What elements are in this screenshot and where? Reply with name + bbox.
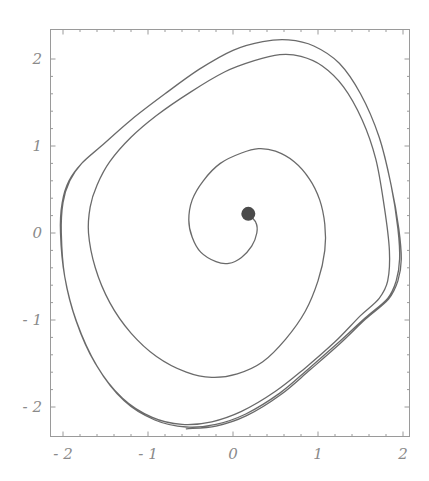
y-axis-ticks (51, 59, 410, 407)
y-tick-label: 0 (32, 224, 42, 242)
y-tick-label: 1 (32, 137, 42, 155)
x-tick-label: 1 (313, 445, 323, 463)
x-tick-label: - 2 (53, 445, 72, 463)
phase-portrait-chart: - 2- 1012 - 2- 1012 (0, 0, 429, 481)
initial-point-marker (241, 207, 255, 221)
y-tick-label: - 1 (23, 311, 42, 329)
x-tick-label: 2 (397, 445, 408, 463)
x-axis-tick-labels: - 2- 1012 (53, 445, 407, 463)
trajectory-curve (60, 40, 401, 429)
x-tick-label: - 1 (138, 445, 157, 463)
y-tick-label: 2 (31, 50, 42, 68)
y-tick-label: - 2 (23, 398, 42, 416)
x-tick-label: 0 (228, 445, 238, 463)
y-axis-tick-labels: - 2- 1012 (23, 50, 43, 416)
